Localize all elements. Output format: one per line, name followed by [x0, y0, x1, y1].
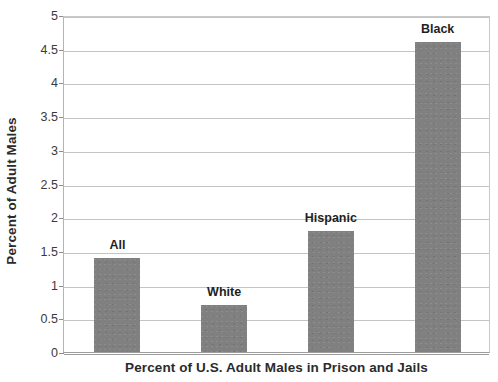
bar-chart: Percent of Adult Males 00.511.522.533.54… [0, 0, 498, 382]
plot-area: AllWhiteHispanicBlack [63, 16, 490, 353]
y-axis-tick-label: 1.5 [41, 245, 58, 259]
bar-label-white: White [207, 285, 241, 299]
y-axis-tick-labels: 00.511.522.533.544.55 [22, 16, 58, 353]
y-axis-tick-label: 3 [51, 144, 58, 158]
bars-layer: AllWhiteHispanicBlack [64, 17, 489, 352]
y-axis-tick-label: 0 [51, 346, 58, 360]
bar-hispanic [308, 231, 354, 352]
bar-label-hispanic: Hispanic [305, 211, 357, 225]
y-axis-tick-label: 1 [51, 279, 58, 293]
y-axis-tick-label: 3.5 [41, 110, 58, 124]
y-axis-tick-label: 4.5 [41, 43, 58, 57]
y-axis-title: Percent of Adult Males [0, 0, 22, 382]
y-axis-tick-label: 4 [51, 76, 58, 90]
bar-label-black: Black [421, 22, 454, 36]
y-axis-tick-label: 0.5 [41, 312, 58, 326]
gridline [64, 354, 489, 355]
y-axis-tick-label: 5 [51, 9, 58, 23]
bar-label-all: All [109, 238, 125, 252]
x-axis-title: Percent of U.S. Adult Males in Prison an… [63, 360, 490, 375]
y-axis-tick-label: 2 [51, 211, 58, 225]
bar-white [201, 305, 247, 352]
bar-black [415, 42, 461, 352]
bar-all [94, 258, 140, 352]
y-axis-tick-label: 2.5 [41, 178, 58, 192]
